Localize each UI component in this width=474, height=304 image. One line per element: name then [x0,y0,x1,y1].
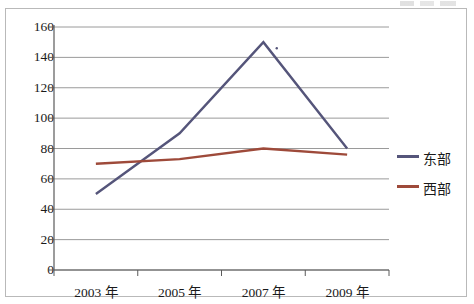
plot-area: 020406080100120140160 2003 年2005 年2007 年… [6,9,466,296]
legend-swatch [397,155,419,158]
legend-swatch [397,185,419,188]
legend-label: 东部 [423,148,451,168]
chart-container: 020406080100120140160 2003 年2005 年2007 年… [5,8,467,297]
stray-dot [276,47,278,49]
line-chart-svg [6,9,468,298]
series-line-west [96,149,347,164]
scan-artifact [400,1,466,6]
legend-label: 西部 [423,178,451,198]
